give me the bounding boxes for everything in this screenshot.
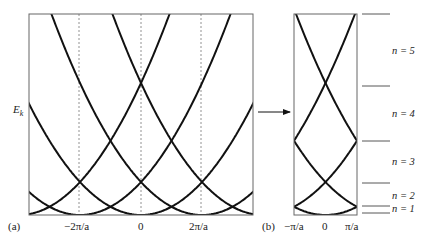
x-tick-zero-a: 0 (138, 220, 144, 232)
band-label-n3: n = 3 (392, 156, 415, 167)
band-label-n2: n = 2 (392, 190, 415, 201)
x-tick-zero-b: 0 (322, 220, 328, 232)
panel-a-plot (20, 0, 262, 215)
band-label-n4: n = 4 (392, 108, 415, 119)
band-curve-0 (290, 0, 362, 147)
x-tick-minus-pi-b: −π/a (284, 220, 304, 232)
y-axis-label: Ek (13, 103, 23, 118)
panel-a-tag: (a) (8, 220, 20, 232)
band-diagram (0, 0, 430, 242)
band-curve-3 (290, 134, 362, 209)
x-tick-plus-pi-b: π/a (345, 220, 359, 232)
panel-b-tag: (b) (262, 220, 275, 232)
band-separators (362, 14, 390, 213)
panel-b-plot (290, 0, 362, 215)
band-curve-2 (290, 204, 362, 215)
band-label-n1: n = 1 (392, 203, 415, 214)
band-curve-1 (290, 133, 362, 209)
panel-b-frame (294, 14, 357, 215)
x-tick-plus-2pi-a: 2π/a (189, 220, 208, 232)
band-label-n5: n = 5 (392, 45, 415, 56)
x-tick-minus-2pi-a: −2π/a (64, 220, 89, 232)
